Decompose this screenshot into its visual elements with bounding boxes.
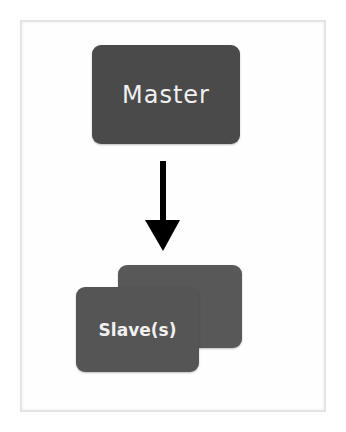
slave-label: Slave(s) — [99, 320, 177, 340]
slave-node-front: Slave(s) — [76, 287, 199, 372]
